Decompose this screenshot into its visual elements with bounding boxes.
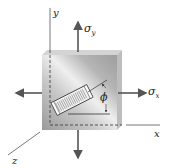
plate-top-face [42, 50, 122, 55]
sigma-x-label: σx [148, 85, 160, 100]
stress-element-diagram: y x z σy σx ϕ [0, 0, 172, 168]
y-axis-label: y [52, 7, 59, 18]
plate-side-face [117, 50, 122, 130]
z-axis-label: z [11, 155, 18, 166]
z-axis-line [8, 132, 40, 155]
sigma-y-label: σy [84, 22, 97, 37]
x-axis-label: x [154, 128, 160, 139]
angle-phi-label: ϕ [100, 91, 108, 104]
